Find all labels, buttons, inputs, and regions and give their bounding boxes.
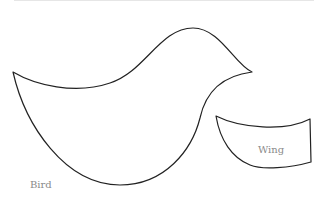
template-canvas xyxy=(0,0,327,207)
wing-label: Wing xyxy=(258,144,284,155)
bird-label: Bird xyxy=(30,179,52,190)
bird-outline xyxy=(13,28,252,185)
wing-outline xyxy=(216,116,311,168)
